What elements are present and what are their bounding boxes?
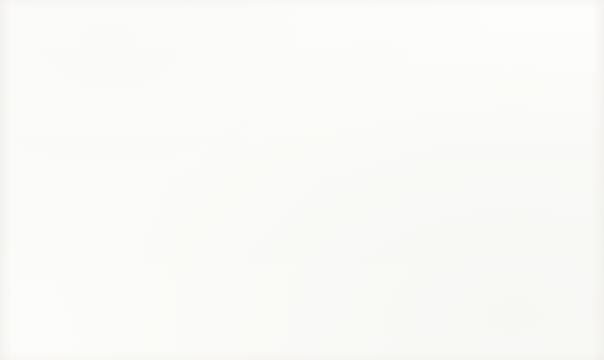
donut-chart-svg: 56326620612698 [165, 51, 465, 341]
slice-value-label: 206 [194, 196, 212, 208]
legend-item[interactable]: Somewhat easy [510, 180, 604, 196]
legend-item[interactable]: Very difficult [510, 231, 604, 247]
legend-color-swatch [510, 169, 514, 173]
legend-label: Somewhat difficult [519, 219, 573, 226]
legend-color-swatch [510, 186, 514, 190]
legend-label: Very difficult [519, 236, 555, 243]
slice-value-label: 563 [416, 170, 434, 182]
screenshot-canvas: How easy is it for you to take medical l… [0, 0, 604, 360]
slice-value-label: 266 [269, 295, 287, 307]
legend-item[interactable]: Don't know [510, 163, 604, 179]
legend-item[interactable]: Very easy [510, 197, 604, 213]
legend-label: Somewhat easy [519, 185, 567, 192]
legend-item[interactable]: Somewhat difficult [510, 214, 604, 230]
slice-value-label: 98 [282, 80, 294, 92]
chart-title: How easy is it for you to take medical l… [15, 29, 591, 43]
legend-color-swatch [510, 237, 514, 241]
chart-legend: Don't knowSomewhat easyVery easySomewhat… [510, 163, 604, 248]
legend-color-swatch [510, 203, 514, 207]
donut-chart: 56326620612698 [165, 51, 465, 341]
donut-slices [178, 59, 452, 333]
slice-value-label: 126 [225, 111, 243, 123]
legend-color-swatch [510, 220, 514, 224]
slide-frame: How easy is it for you to take medical l… [14, 10, 590, 350]
legend-label: Don't know [519, 168, 552, 175]
legend-label: Very easy [519, 202, 548, 209]
